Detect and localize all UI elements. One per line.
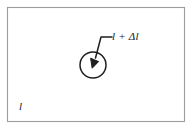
original-length-label: l (19, 101, 22, 112)
deformed-length-label: l + Δl (112, 31, 139, 42)
figure-drawing (0, 0, 193, 128)
figure-container: l + Δl l (0, 0, 193, 128)
